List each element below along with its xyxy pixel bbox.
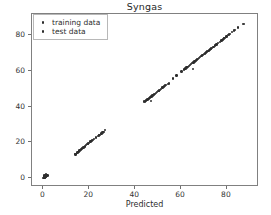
legend-label-training: training data	[52, 18, 100, 27]
y-tick-mark	[28, 70, 31, 71]
x-axis-label: Predicted	[31, 200, 258, 209]
legend-label-test: test data	[52, 27, 86, 36]
data-point	[87, 142, 89, 144]
chart-title: Syngas	[31, 1, 258, 12]
y-tick-mark	[28, 34, 31, 35]
data-point	[158, 89, 160, 91]
x-tick-label: 20	[84, 190, 94, 199]
data-point	[242, 23, 244, 25]
data-point	[101, 131, 103, 133]
y-tick-label: 40	[15, 101, 25, 110]
x-tick-mark	[180, 186, 181, 189]
x-tick-mark	[134, 186, 135, 189]
x-tick-label: 80	[221, 190, 231, 199]
x-tick-mark	[88, 186, 89, 189]
data-point	[192, 68, 194, 70]
data-point	[223, 37, 225, 39]
data-point	[172, 77, 174, 79]
data-point	[143, 100, 145, 102]
x-tick-mark	[42, 186, 43, 189]
legend-marker-dot-icon	[38, 21, 48, 24]
legend-item-training: training data	[38, 18, 100, 27]
data-point	[46, 175, 48, 177]
y-tick-mark	[28, 177, 31, 178]
y-tick-mark	[28, 106, 31, 107]
data-point	[175, 74, 177, 76]
x-tick-mark	[226, 186, 227, 189]
x-tick-label: 60	[175, 190, 185, 199]
legend-item-test: test data	[38, 27, 100, 36]
chart-legend: training data test data	[33, 14, 108, 40]
data-point	[168, 82, 170, 84]
data-point	[152, 94, 154, 96]
data-point	[180, 70, 182, 72]
data-point	[237, 26, 239, 28]
data-point	[82, 146, 84, 148]
legend-marker-dot-icon	[38, 30, 48, 33]
chart-figure: Syngas 020406080020406080 Predicted Actu…	[0, 0, 271, 215]
y-tick-label: 20	[15, 137, 25, 146]
y-tick-label: 0	[20, 173, 25, 182]
data-point	[150, 100, 152, 102]
data-point	[98, 134, 100, 136]
x-tick-label: 0	[40, 190, 45, 199]
y-tick-label: 60	[15, 66, 25, 75]
y-tick-mark	[28, 141, 31, 142]
x-tick-label: 40	[129, 190, 139, 199]
y-axis-label: Actual	[0, 76, 1, 101]
y-tick-label: 80	[15, 30, 25, 39]
